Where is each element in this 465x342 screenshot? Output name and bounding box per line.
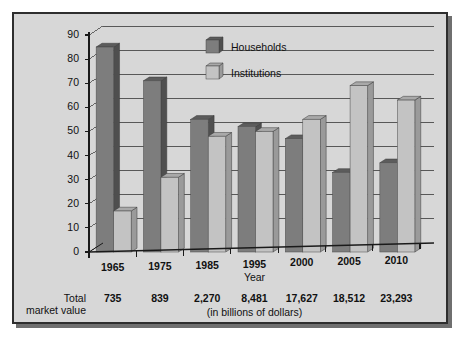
total-label-line2: market value xyxy=(26,304,86,316)
bar-2010-institutions xyxy=(397,96,420,252)
y-tick-90: 90 xyxy=(53,29,79,39)
total-market-value-1975: 839 xyxy=(137,292,183,304)
legend-label-households: Households xyxy=(231,41,286,53)
y-tick-0: 0 xyxy=(53,246,79,256)
y-tick-70: 70 xyxy=(53,77,79,87)
chart-figure: 0102030405060708090 19651975198519952000… xyxy=(12,12,448,324)
y-tick-40: 40 xyxy=(53,150,79,160)
y-tick-50: 50 xyxy=(53,125,79,135)
x-tick-1985: 1985 xyxy=(184,259,230,271)
y-tick-30: 30 xyxy=(53,174,79,184)
legend-label-institutions: Institutions xyxy=(231,67,281,79)
total-market-value-1995: 8,481 xyxy=(232,292,278,304)
bar-2000-institutions xyxy=(303,116,326,252)
legend-swatch-households xyxy=(206,37,223,53)
y-tick-10: 10 xyxy=(53,222,79,232)
y-tick-80: 80 xyxy=(53,53,79,63)
x-tick-1995: 1995 xyxy=(232,258,278,270)
total-market-value-1965: 735 xyxy=(90,292,136,304)
y-tick-60: 60 xyxy=(53,101,79,111)
legend-swatch-institutions xyxy=(206,63,223,79)
bar-1995-institutions xyxy=(256,128,279,252)
total-market-value-1985: 2,270 xyxy=(184,292,230,304)
chart-plot-area: 0102030405060708090 19651975198519952000… xyxy=(14,14,450,326)
bar-2005-institutions xyxy=(350,82,373,252)
x-tick-1965: 1965 xyxy=(90,261,136,273)
total-market-value-2000: 17,627 xyxy=(279,292,325,304)
x-tick-2010: 2010 xyxy=(373,254,419,266)
total-market-value-label: Total market value xyxy=(0,292,86,316)
x-tick-2000: 2000 xyxy=(279,256,325,268)
bar-1975-institutions xyxy=(161,173,184,252)
total-market-value-2010: 23,293 xyxy=(373,292,419,304)
units-note: (in billions of dollars) xyxy=(175,306,335,318)
bar-1985-institutions xyxy=(208,132,231,252)
x-axis-title: Year xyxy=(225,271,285,283)
total-label-line1: Total xyxy=(64,292,86,304)
x-tick-2005: 2005 xyxy=(326,255,372,267)
x-tick-1975: 1975 xyxy=(137,260,183,272)
legend-swatches xyxy=(206,37,223,79)
y-tick-20: 20 xyxy=(53,198,79,208)
total-market-value-2005: 18,512 xyxy=(326,292,372,304)
bar-1965-institutions xyxy=(114,207,137,252)
